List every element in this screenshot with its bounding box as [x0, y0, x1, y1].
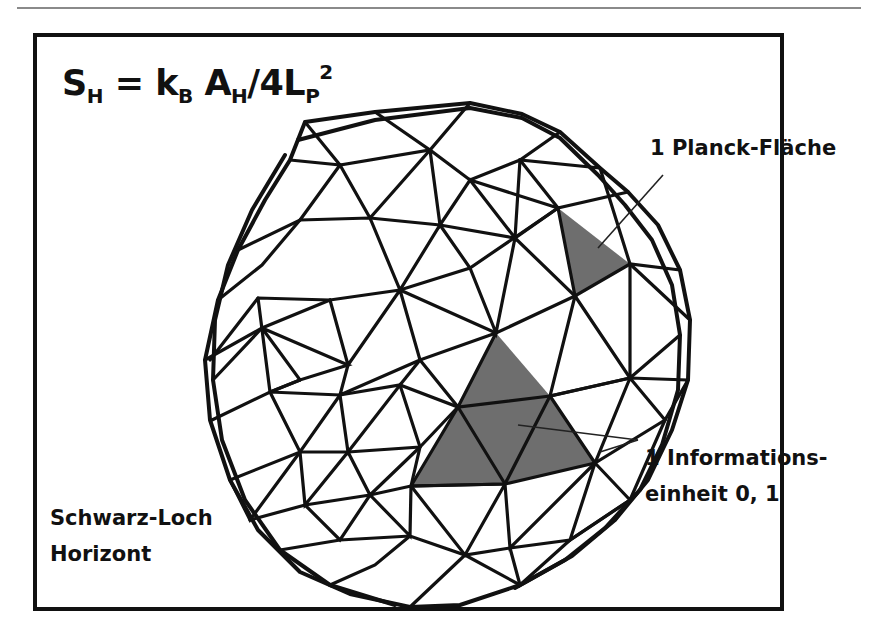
information-unit-label: 1 Informations- einheit 0, 1 — [645, 440, 828, 512]
highlighted-faces — [411, 208, 630, 486]
planck-area-label: 1 Planck-Fläche — [650, 130, 836, 166]
black-hole-horizon-label: Schwarz-Loch Horizont — [50, 500, 213, 572]
